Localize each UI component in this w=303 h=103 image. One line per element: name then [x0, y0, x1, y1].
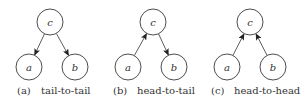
- node-a: a: [115, 54, 141, 80]
- panel-tag: (a): [17, 85, 31, 96]
- panel-caption: tail-to-tail: [41, 85, 91, 96]
- edges: [134, 33, 168, 55]
- node-a: a: [214, 54, 240, 80]
- panel-tag: (b): [113, 85, 127, 96]
- node-a-label: a: [125, 62, 131, 73]
- edge-c-to-b: [56, 33, 68, 55]
- node-b-label: b: [72, 62, 78, 73]
- panel-caption: head-to-tail: [137, 85, 195, 96]
- node-b: b: [62, 54, 88, 80]
- bayesian-network-diagram: c a b (a) tail-to-tail c a b (b) head-to…: [0, 0, 303, 103]
- panel-tag: (c): [211, 85, 225, 96]
- edge-a-to-c: [233, 34, 244, 56]
- panel-head-to-tail: c a b (b) head-to-tail: [113, 9, 195, 96]
- node-c-label: c: [47, 17, 53, 28]
- node-a-label: a: [224, 62, 230, 73]
- node-c: c: [140, 9, 166, 35]
- node-c: c: [237, 9, 263, 35]
- node-c-label: c: [150, 17, 156, 28]
- node-b: b: [260, 54, 286, 80]
- panel-tail-to-tail: c a b (a) tail-to-tail: [16, 9, 91, 96]
- node-b: b: [161, 54, 187, 80]
- edges: [35, 33, 69, 55]
- edge-c-to-a: [35, 34, 45, 55]
- node-b-label: b: [270, 62, 276, 73]
- panel-head-to-head: c a b (c) head-to-head: [211, 9, 301, 96]
- node-c-label: c: [247, 17, 253, 28]
- node-b-label: b: [171, 62, 177, 73]
- edge-c-to-b: [159, 34, 169, 55]
- edges: [233, 34, 267, 56]
- node-c: c: [37, 9, 63, 35]
- edge-b-to-c: [256, 34, 267, 56]
- node-a: a: [16, 54, 42, 80]
- edge-a-to-c: [134, 33, 146, 55]
- node-a-label: a: [26, 62, 32, 73]
- panel-caption: head-to-head: [234, 85, 301, 96]
